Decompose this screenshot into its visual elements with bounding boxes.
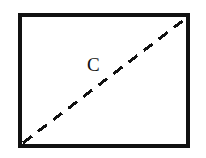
figure-canvas: C [0,0,206,158]
diagram-background [0,0,206,158]
diagram-svg [0,0,206,158]
diagonal-label: C [87,55,100,74]
